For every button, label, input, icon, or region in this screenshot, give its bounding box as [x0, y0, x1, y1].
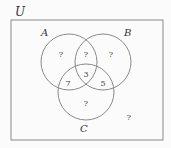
venn-diagram: U A B C ? ? ? 7 3 5 ? ?: [0, 0, 171, 148]
region-a-and-c: 7: [65, 79, 70, 88]
set-b-label: B: [123, 27, 131, 38]
region-b-only: ?: [109, 50, 113, 59]
set-a-label: A: [40, 27, 48, 38]
region-a-only: ?: [59, 50, 63, 59]
region-a-and-b: ?: [84, 50, 88, 59]
set-c-label: C: [80, 123, 88, 134]
region-a-b-c: 3: [83, 70, 88, 79]
region-b-and-c: 5: [100, 79, 105, 88]
region-outside: ?: [127, 113, 131, 122]
universe-rectangle: [11, 20, 163, 140]
region-c-only: ?: [84, 99, 88, 108]
universe-label: U: [15, 5, 26, 19]
